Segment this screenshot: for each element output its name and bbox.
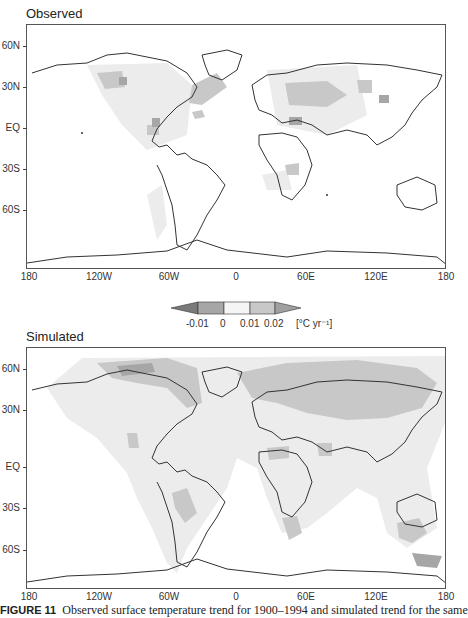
ytick-mark [23, 169, 27, 170]
ytick-60n: 60N [0, 363, 20, 374]
colorbar-label-0: 0 [220, 318, 226, 329]
xtick-180e: 180 [426, 591, 466, 602]
xtick-0: 0 [216, 591, 256, 602]
ytick-60s: 60S [0, 544, 20, 555]
xtick-60w: 60W [149, 271, 189, 282]
xtick-180e: 180 [426, 271, 466, 282]
xtick-120w: 120W [79, 271, 119, 282]
ytick-mark [23, 46, 27, 47]
ytick-mark [23, 410, 27, 411]
xtick-120e: 120E [356, 271, 396, 282]
caption-label: FIGURE 11 [0, 604, 56, 616]
ytick-mark [23, 467, 27, 468]
simulated-map-graphic [27, 348, 446, 589]
ytick-mark [23, 128, 27, 129]
ytick-mark [23, 210, 27, 211]
colorbar-label-neg001: -0.01 [186, 318, 209, 329]
xtick-180w: 180 [9, 271, 49, 282]
xtick-120w: 120W [79, 591, 119, 602]
figure-caption: FIGURE 11 Observed surface temperature t… [0, 603, 468, 618]
colorbar [171, 301, 301, 315]
panel-title-simulated: Simulated [26, 329, 84, 344]
ytick-30s: 30S [0, 163, 20, 174]
ytick-60s: 60S [0, 204, 20, 215]
observed-map-graphic [27, 25, 446, 269]
ytick-mark [23, 87, 27, 88]
ytick-mark [23, 369, 27, 370]
xtick-60e: 60E [286, 271, 326, 282]
map-observed [26, 24, 446, 269]
colorbar-label-002: 0.02 [264, 318, 283, 329]
ytick-30n: 30N [0, 81, 20, 92]
ytick-mark [23, 508, 27, 509]
panel-title-observed: Observed [26, 6, 82, 21]
ytick-30s: 30S [0, 502, 20, 513]
ytick-eq: EQ [0, 461, 20, 472]
map-simulated [26, 347, 446, 589]
ytick-30n: 30N [0, 404, 20, 415]
xtick-0: 0 [216, 271, 256, 282]
xtick-60e: 60E [286, 591, 326, 602]
ytick-mark [23, 550, 27, 551]
ytick-60n: 60N [0, 40, 20, 51]
colorbar-unit: [°C yr⁻¹] [296, 318, 332, 329]
xtick-180w: 180 [9, 591, 49, 602]
ytick-eq: EQ [0, 122, 20, 133]
colorbar-label-001: 0.01 [240, 318, 259, 329]
caption-text: Observed surface temperature trend for 1… [62, 603, 468, 617]
xtick-60w: 60W [149, 591, 189, 602]
xtick-120e: 120E [356, 591, 396, 602]
